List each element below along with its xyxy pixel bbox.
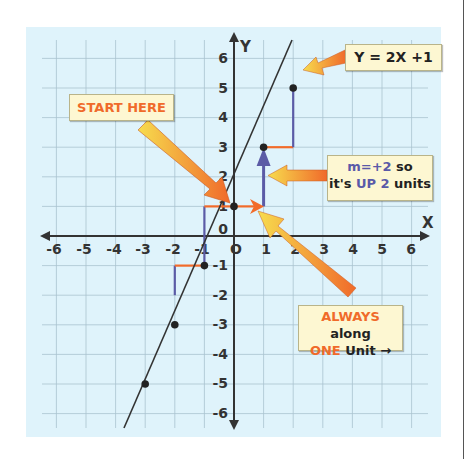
start-here-callout: START HERE <box>69 94 174 121</box>
svg-text:-2: -2 <box>165 241 181 257</box>
y-axis-label: Y <box>239 38 252 56</box>
svg-text:-5: -5 <box>76 241 92 257</box>
equation-callout: Y = 2X +1 <box>345 44 442 71</box>
svg-text:3: 3 <box>319 241 329 257</box>
svg-text:6: 6 <box>218 50 228 66</box>
svg-text:4: 4 <box>348 241 358 257</box>
equation-label: Y = 2X +1 <box>354 49 433 65</box>
svg-text:-3: -3 <box>212 316 228 332</box>
svg-text:-2: -2 <box>212 287 228 303</box>
svg-text:-6: -6 <box>46 241 62 257</box>
x-axis-label: X <box>422 214 434 232</box>
svg-text:0: 0 <box>218 221 228 237</box>
svg-text:5: 5 <box>218 80 228 96</box>
svg-text:-5: -5 <box>212 375 228 391</box>
slope-callout: m=+2 so it's UP 2 units <box>327 155 433 201</box>
svg-text:6: 6 <box>406 241 416 257</box>
svg-text:-4: -4 <box>106 241 122 257</box>
svg-text:1: 1 <box>261 241 271 257</box>
svg-text:-3: -3 <box>135 241 151 257</box>
svg-text:-4: -4 <box>212 346 228 362</box>
svg-text:-6: -6 <box>212 405 228 421</box>
svg-text:-1: -1 <box>212 257 228 273</box>
along-callout: ALWAYS along ONE Unit → <box>298 305 403 351</box>
svg-text:4: 4 <box>218 109 228 125</box>
origin-label-x: O <box>230 241 242 257</box>
svg-text:5: 5 <box>377 241 387 257</box>
svg-text:3: 3 <box>218 139 228 155</box>
